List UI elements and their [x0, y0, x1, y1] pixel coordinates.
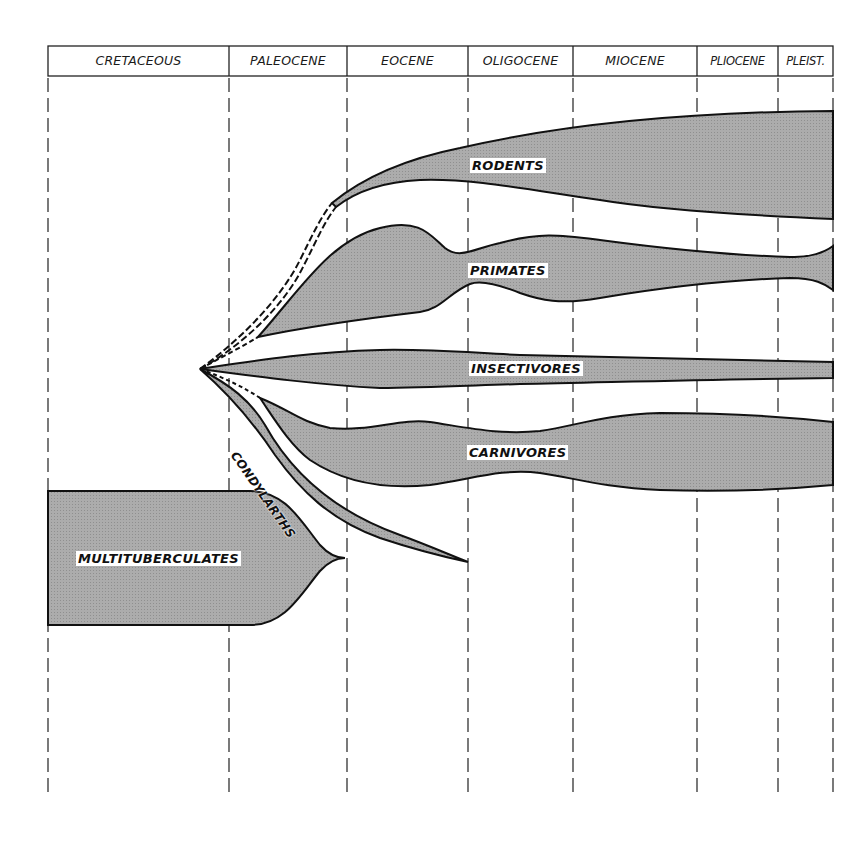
period-label-oligocene: OLIGOCENE	[468, 47, 573, 75]
taxon-label-carnivores: CARNIVORES	[467, 445, 568, 460]
period-label-cretaceous: CRETACEOUS	[48, 47, 229, 75]
period-label-paleocene: PALEOCENE	[229, 47, 347, 75]
period-label-pliocene: PLIOCENE	[697, 47, 778, 75]
period-label-eocene: EOCENE	[347, 47, 468, 75]
taxon-label-primates: PRIMATES	[468, 263, 548, 278]
period-label-pleistocene: PLEIST.	[778, 47, 833, 75]
taxon-label-multituberculates: MULTITUBERCULATES	[76, 551, 241, 566]
taxon-label-rodents: RODENTS	[470, 158, 546, 173]
taxon-label-insectivores: INSECTIVORES	[469, 361, 583, 376]
period-label-miocene: MIOCENE	[573, 47, 697, 75]
diagram-graphics	[0, 0, 867, 842]
primates-spindle	[200, 225, 833, 369]
diagram-canvas: CRETACEOUS PALEOCENE EOCENE OLIGOCENE MI…	[0, 0, 867, 842]
